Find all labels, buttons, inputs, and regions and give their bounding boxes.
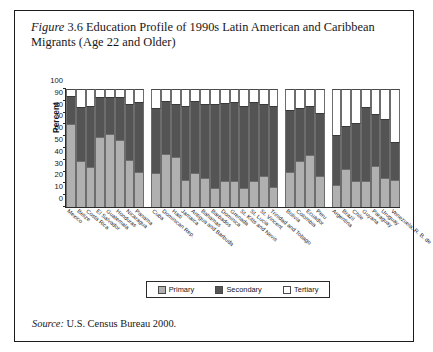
bar-segment-tertiary (76, 89, 86, 107)
bar[interactable] (76, 89, 86, 207)
bar-segment-secondary (200, 104, 210, 177)
bar-segment-secondary (115, 97, 125, 139)
bar[interactable] (249, 89, 259, 207)
bar-segment-primary (181, 180, 191, 207)
bar-segment-secondary (161, 101, 171, 154)
bar[interactable] (171, 89, 181, 207)
bar[interactable] (285, 89, 295, 207)
bar-segment-primary (351, 181, 361, 207)
bar-segment-primary (230, 181, 240, 207)
bar-segment-secondary (95, 97, 105, 137)
bar-segment-secondary (86, 106, 96, 167)
bar-segment-primary (66, 124, 76, 207)
bar-segment-primary (95, 137, 105, 207)
chart-legend: PrimarySecondaryTertiary (146, 281, 330, 298)
bar-segment-tertiary (66, 89, 76, 96)
bar-segment-secondary (295, 108, 305, 161)
bar-segment-primary (390, 180, 400, 207)
bar-segment-primary (86, 167, 96, 207)
bar[interactable] (380, 89, 390, 207)
bar[interactable] (315, 89, 325, 207)
bar-segment-tertiary (351, 89, 361, 123)
bar-segment-primary (380, 178, 390, 208)
chart-plot-area: 0102030405060708090100 (65, 89, 400, 208)
legend-label: Secondary (226, 285, 261, 294)
bar-segment-primary (76, 161, 86, 207)
bar-segment-secondary (259, 104, 269, 176)
bar[interactable] (134, 89, 144, 207)
bar-group-gap (278, 89, 285, 207)
figure-title-text: Education Profile of 1990s Latin America… (31, 20, 375, 49)
bar-segment-primary (285, 172, 295, 207)
source-note: Source: U.S. Census Bureau 2000. (32, 318, 176, 329)
bar-segment-tertiary (161, 89, 171, 101)
bar-segment-tertiary (361, 89, 371, 107)
bar[interactable] (390, 89, 400, 207)
y-axis-tick-label: 30 (19, 158, 63, 167)
bar[interactable] (220, 89, 230, 207)
bar[interactable] (332, 89, 342, 207)
bar-segment-tertiary (171, 89, 181, 104)
legend-item-primary[interactable]: Primary (158, 285, 194, 294)
figure-number: 3.6 (67, 20, 83, 34)
bar[interactable] (341, 89, 351, 207)
bar[interactable] (95, 89, 105, 207)
bar[interactable] (190, 89, 200, 207)
bar-segment-primary (200, 178, 210, 208)
bar[interactable] (361, 89, 371, 207)
bar-segment-primary (341, 169, 351, 207)
bar-segment-tertiary (285, 89, 295, 110)
bar[interactable] (115, 89, 125, 207)
bar-segment-secondary (249, 102, 259, 181)
bar[interactable] (351, 89, 361, 207)
bar[interactable] (200, 89, 210, 207)
legend-label: Primary (169, 285, 194, 294)
y-axis-tick-label: 60 (19, 123, 63, 132)
bar[interactable] (151, 89, 161, 207)
bar-segment-secondary (230, 102, 240, 181)
bar-segment-tertiary (239, 89, 249, 106)
bar[interactable] (230, 89, 240, 207)
bar[interactable] (105, 89, 115, 207)
bar-segment-primary (190, 173, 200, 207)
bar-segment-secondary (210, 104, 220, 188)
bar[interactable] (161, 89, 171, 207)
bar[interactable] (259, 89, 269, 207)
bar-segment-primary (171, 157, 181, 207)
bar[interactable] (86, 89, 96, 207)
bar-segment-primary (361, 181, 371, 207)
bar-segment-primary (332, 185, 342, 207)
bar-segment-primary (315, 176, 325, 207)
y-axis-tick-label: 20 (19, 170, 63, 179)
legend-item-tertiary[interactable]: Tertiary (283, 285, 318, 294)
bar[interactable] (295, 89, 305, 207)
y-axis-tick-label: 0 (19, 194, 63, 203)
y-axis-tick-label: 100 (19, 76, 63, 85)
y-axis-tick-label: 80 (19, 99, 63, 108)
bar-segment-secondary (105, 97, 115, 134)
bar-segment-primary (151, 173, 161, 207)
bar-segment-secondary (125, 104, 135, 159)
legend-item-secondary[interactable]: Secondary (215, 285, 261, 294)
y-axis-tick-label: 40 (19, 146, 63, 155)
bar-segment-tertiary (220, 89, 230, 103)
bar-segment-secondary (371, 114, 381, 166)
bar[interactable] (305, 89, 315, 207)
bar[interactable] (269, 89, 279, 207)
bar-segment-tertiary (105, 89, 115, 97)
bar[interactable] (210, 89, 220, 207)
bar[interactable] (66, 89, 76, 207)
chart-plot-frame: Percent 0102030405060708090100 MexicoBel… (65, 79, 399, 209)
bar[interactable] (371, 89, 381, 207)
bar-segment-primary (371, 166, 381, 207)
bar-segment-secondary (285, 110, 295, 171)
legend-label: Tertiary (294, 285, 318, 294)
bar-segment-secondary (361, 107, 371, 181)
bar-segment-secondary (351, 123, 361, 181)
bar-segment-secondary (151, 108, 161, 173)
bar[interactable] (181, 89, 191, 207)
bar-segment-primary (305, 155, 315, 207)
bar-segment-tertiary (190, 89, 200, 101)
bar[interactable] (125, 89, 135, 207)
bar[interactable] (239, 89, 249, 207)
